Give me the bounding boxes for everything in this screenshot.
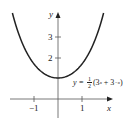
eq-prefix: y = (73, 79, 86, 87)
eq-body: (3 (93, 79, 100, 87)
eq-numerator: 1 (87, 76, 92, 83)
eq-denominator: 2 (88, 83, 91, 89)
y-tick-label-2: 2 (48, 54, 53, 63)
eq-mid: + 3 (102, 79, 115, 87)
x-tick-label-1: 1 (80, 104, 85, 113)
equation-label: y = 1 2 (3 x + 3 −x ) (73, 76, 123, 89)
chart-canvas (0, 0, 137, 125)
x-axis-label: x (107, 104, 111, 113)
eq-fraction: 1 2 (87, 76, 92, 89)
y-tick-label-3: 3 (48, 33, 53, 42)
x-axis-arrow-icon (107, 97, 113, 102)
x-tick-label-neg1: −1 (29, 104, 39, 113)
eq-end: ) (120, 79, 123, 87)
y-axis-label: y (49, 10, 53, 19)
y-axis-arrow-icon (56, 12, 61, 18)
